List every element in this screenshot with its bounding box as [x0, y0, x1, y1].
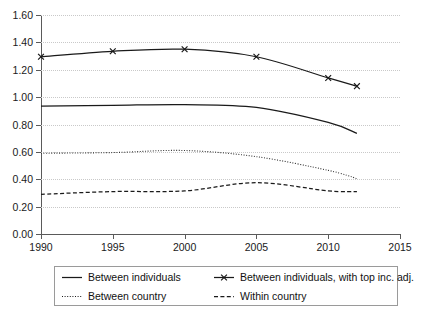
- plot-area: 0.000.200.400.600.801.001.201.401.60 199…: [41, 15, 400, 234]
- chart-figure: 0.000.200.400.600.801.001.201.401.60 199…: [0, 0, 436, 318]
- chart-legend: Between individualsBetween individuals, …: [54, 266, 398, 306]
- series-line: [41, 150, 357, 178]
- legend-item[interactable]: Within country: [213, 287, 414, 306]
- x-tick: [256, 234, 257, 239]
- legend-label: Between country: [88, 291, 166, 302]
- legend-label: Between individuals: [88, 272, 181, 283]
- series-line: [41, 105, 357, 134]
- x-tick-label: 2005: [245, 241, 268, 253]
- x-tick: [185, 234, 186, 239]
- legend-item[interactable]: Between individuals: [61, 268, 213, 287]
- series-lines: [41, 15, 400, 234]
- legend-swatch-solid-icon: [61, 272, 83, 283]
- x-tick: [41, 234, 42, 239]
- x-tick: [328, 234, 329, 239]
- y-tick-label: 1.20: [13, 64, 33, 76]
- x-tick: [113, 234, 114, 239]
- x-axis-line: [41, 234, 401, 235]
- legend-swatch-dashed-icon: [213, 291, 235, 302]
- y-tick-label: 0.00: [13, 228, 33, 240]
- legend-label: Between individuals, with top inc. adj.: [240, 272, 414, 283]
- x-tick-label: 2015: [388, 241, 411, 253]
- y-tick-label: 1.40: [13, 36, 33, 48]
- legend-item[interactable]: Between country: [61, 287, 213, 306]
- y-tick-label: 1.00: [13, 91, 33, 103]
- series-line: [41, 183, 357, 195]
- x-tick-label: 2000: [173, 241, 196, 253]
- legend-swatch-solid-icon: [213, 272, 235, 283]
- legend-item[interactable]: Between individuals, with top inc. adj.: [213, 268, 414, 287]
- legend-label: Within country: [240, 291, 307, 302]
- y-tick-label: 0.80: [13, 119, 33, 131]
- x-tick-label: 1990: [29, 241, 52, 253]
- x-tick-label: 1995: [101, 241, 124, 253]
- x-tick-label: 2010: [317, 241, 340, 253]
- y-tick-label: 0.20: [13, 201, 33, 213]
- series-line: [41, 49, 357, 86]
- legend-swatch-dotted-icon: [61, 291, 83, 302]
- y-tick-label: 1.60: [13, 9, 33, 21]
- y-tick-label: 0.60: [13, 146, 33, 158]
- y-tick-label: 0.40: [13, 173, 33, 185]
- legend-items: Between individualsBetween individuals, …: [55, 267, 397, 306]
- x-tick: [400, 234, 401, 239]
